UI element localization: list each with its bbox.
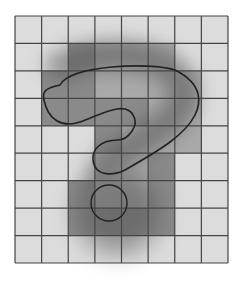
grid-cell (122, 71, 149, 98)
grid-cell (42, 98, 69, 125)
question-mark-grid-diagram (0, 0, 241, 282)
grid-cell (95, 71, 122, 98)
grid-cell (148, 153, 175, 180)
grid-cell (95, 98, 122, 125)
diagram-canvas (0, 0, 241, 282)
